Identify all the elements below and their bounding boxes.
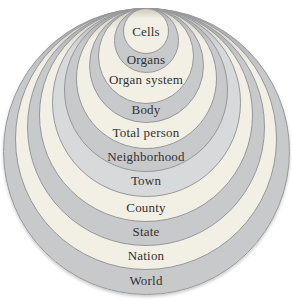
ring-label-nation: Nation [128, 248, 165, 264]
ring-label-cells: Cells [132, 24, 160, 40]
ring-label-state: State [133, 224, 160, 240]
ring-label-world: World [129, 273, 162, 289]
ring-label-neighborhood: Neighborhood [107, 149, 185, 165]
ring-label-organ-system: Organ system [109, 72, 183, 88]
nested-circles-diagram: WorldNationStateCountyTownNeighborhoodTo… [0, 0, 292, 301]
ring-label-body: Body [132, 102, 161, 118]
ring-label-town: Town [131, 173, 161, 189]
ring-label-county: County [126, 200, 165, 216]
ring-label-total-person: Total person [113, 125, 180, 141]
ring-label-organs: Organs [127, 52, 166, 68]
